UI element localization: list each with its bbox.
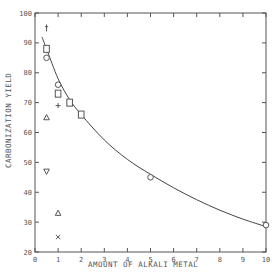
chart-svg: 0123456789102030405060708090100 AMOUNT O…: [0, 0, 279, 273]
y-tick-label: 30: [24, 219, 32, 227]
y-tick-label: 60: [24, 129, 32, 137]
cross-marker: [56, 235, 60, 239]
x-axis-label: AMOUNT OF ALKALI METAL: [88, 260, 198, 269]
y-tick-label: 50: [24, 159, 32, 167]
circle-marker: [148, 175, 154, 181]
y-tick-label: 20: [24, 249, 32, 257]
fit-curve-path: [42, 37, 266, 227]
triangle-up-marker: [44, 115, 50, 120]
ticks: 0123456789102030405060708090100: [19, 10, 270, 265]
x-tick-label: 2: [79, 256, 83, 264]
chart-container: 0123456789102030405060708090100 AMOUNT O…: [0, 0, 279, 273]
x-tick-label: 0: [33, 256, 37, 264]
x-tick-label: 9: [241, 256, 245, 264]
square-marker: [67, 99, 73, 106]
x-tick-label: 8: [218, 256, 222, 264]
y-tick-label: 100: [19, 10, 32, 18]
square-marker: [55, 90, 61, 97]
x-tick-label: 1: [56, 256, 60, 264]
x-tick-label: 10: [262, 256, 270, 264]
square-marker: [44, 45, 50, 52]
data-points: [44, 24, 269, 239]
triangle-down-marker: [44, 169, 50, 174]
circle-marker: [44, 55, 50, 61]
y-tick-label: 40: [24, 189, 32, 197]
circle-marker: [55, 82, 61, 88]
plot-frame: [35, 13, 266, 252]
triangle-up-marker: [55, 210, 61, 215]
y-axis-label: CARBONIZATION YIELD: [4, 73, 13, 168]
y-tick-label: 80: [24, 69, 32, 77]
square-marker: [78, 111, 84, 118]
fit-curve: [42, 37, 266, 227]
dagger-marker: [45, 24, 48, 31]
y-tick-label: 70: [24, 99, 32, 107]
circle-marker: [263, 222, 269, 228]
plus-marker: [56, 103, 61, 108]
axes: [35, 13, 266, 252]
y-tick-label: 90: [24, 39, 32, 47]
